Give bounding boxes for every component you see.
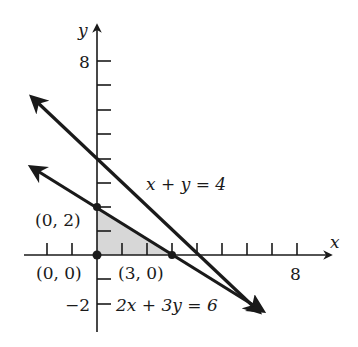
x-tick-label-8: 8 xyxy=(290,264,301,284)
linear-inequality-graph: y x 8 8 −2 x + y = 4 2x + 3y = 6 (0, 2) … xyxy=(0,0,358,347)
y-tick-label-8: 8 xyxy=(79,52,90,72)
label-point-0-0: (0, 0) xyxy=(36,263,82,283)
x-axis-label: x xyxy=(330,232,340,252)
label-point-3-0: (3, 0) xyxy=(118,263,164,283)
point-0-0 xyxy=(93,251,102,260)
point-3-0 xyxy=(168,251,176,259)
label-point-0-2: (0, 2) xyxy=(35,210,81,230)
y-axis-label: y xyxy=(77,20,88,40)
point-0-2 xyxy=(93,203,101,211)
label-x-plus-y-eq-4: x + y = 4 xyxy=(146,174,226,194)
y-tick-label-neg2: −2 xyxy=(65,295,90,315)
y-ticks xyxy=(97,61,111,304)
label-2x-plus-3y-eq-6: 2x + 3y = 6 xyxy=(115,295,218,315)
